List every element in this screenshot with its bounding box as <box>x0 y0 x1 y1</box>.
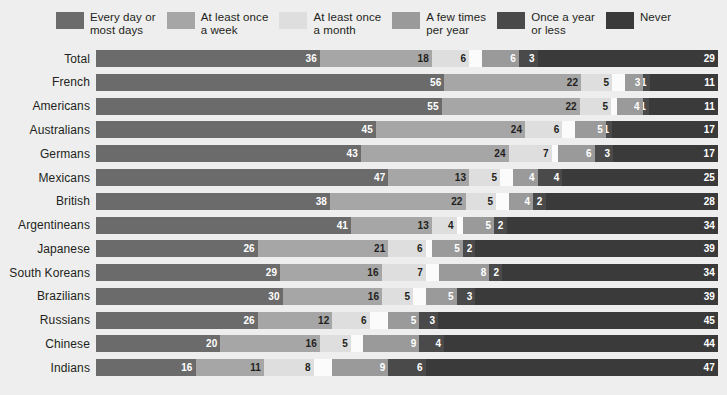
bar-segment[interactable]: 12 <box>258 312 333 329</box>
bar-segment[interactable] <box>370 312 389 329</box>
bar-segment[interactable]: 3 <box>625 74 644 91</box>
bar-segment[interactable]: 5 <box>426 288 457 305</box>
bar-segment[interactable] <box>469 50 481 67</box>
bar-segment[interactable]: 5 <box>581 74 612 91</box>
bar-segment[interactable]: 39 <box>475 288 718 305</box>
legend-item[interactable]: Never <box>606 11 671 29</box>
bar-segment[interactable]: 20 <box>96 335 220 352</box>
bar-segment[interactable]: 17 <box>613 145 718 162</box>
segment-value-label: 43 <box>346 148 357 159</box>
bar-segment[interactable]: 30 <box>96 288 283 305</box>
bar-segment[interactable]: 3 <box>595 145 613 162</box>
bar-segment[interactable] <box>562 121 574 138</box>
bar-segment[interactable]: 34 <box>502 264 718 281</box>
bar-segment[interactable]: 8 <box>439 264 490 281</box>
bar-segment[interactable]: 2 <box>533 193 545 210</box>
row-label: Japanese <box>0 242 96 256</box>
bar-segment[interactable]: 7 <box>509 145 552 162</box>
bar-segment[interactable]: 11 <box>649 98 718 115</box>
bar-segment[interactable]: 4 <box>419 335 444 352</box>
bar-segment[interactable]: 47 <box>96 169 388 186</box>
bar-segment[interactable]: 3 <box>457 288 476 305</box>
bar-segment[interactable]: 4 <box>538 169 563 186</box>
bar-segment[interactable]: 22 <box>330 193 465 210</box>
bar-segment[interactable]: 6 <box>525 121 562 138</box>
bar-segment[interactable]: 5 <box>463 217 494 234</box>
bar-segment[interactable]: 47 <box>426 359 718 376</box>
bar-segment[interactable] <box>314 359 333 376</box>
bar-segment[interactable]: 39 <box>475 240 718 257</box>
bar-segment[interactable]: 2 <box>463 240 475 257</box>
bar-segment[interactable]: 2 <box>489 264 502 281</box>
bar-segment[interactable]: 5 <box>466 193 497 210</box>
bar-segment[interactable]: 5 <box>469 169 500 186</box>
bar-segment[interactable]: 43 <box>96 145 361 162</box>
bar-segment[interactable] <box>413 288 425 305</box>
bar-segment[interactable] <box>351 335 363 352</box>
bar-segment[interactable]: 55 <box>96 98 442 115</box>
bar-segment[interactable]: 56 <box>96 74 444 91</box>
bar-segment[interactable]: 22 <box>444 74 581 91</box>
bar-segment[interactable]: 28 <box>546 193 718 210</box>
bar-segment[interactable]: 4 <box>432 217 457 234</box>
bar-segment[interactable]: 6 <box>332 312 369 329</box>
bar-segment[interactable]: 5 <box>575 121 606 138</box>
bar-segment[interactable]: 22 <box>442 98 580 115</box>
bar-segment[interactable]: 4 <box>617 98 642 115</box>
segment-value-label: 5 <box>454 243 460 254</box>
bar-segment[interactable]: 5 <box>388 312 419 329</box>
bar-segment[interactable]: 34 <box>507 217 718 234</box>
bar-segment[interactable]: 6 <box>432 50 469 67</box>
bar-segment[interactable]: 11 <box>196 359 264 376</box>
legend-item[interactable]: At least once a month <box>279 11 381 36</box>
bar-segment[interactable] <box>612 74 624 91</box>
bar-segment[interactable]: 13 <box>351 217 432 234</box>
bar-segment[interactable]: 24 <box>361 145 509 162</box>
bar-segment[interactable]: 4 <box>509 193 534 210</box>
bar-segment[interactable]: 13 <box>388 169 469 186</box>
bar-segment[interactable]: 44 <box>444 335 718 352</box>
bar-segment[interactable]: 29 <box>538 50 718 67</box>
bar-segment[interactable]: 9 <box>332 359 388 376</box>
bar-segment[interactable]: 3 <box>419 312 438 329</box>
bar-segment[interactable]: 16 <box>283 288 383 305</box>
bar-segment[interactable]: 45 <box>96 121 376 138</box>
bar-segment[interactable]: 6 <box>388 240 425 257</box>
bar-segment[interactable]: 7 <box>382 264 426 281</box>
bar-segment[interactable]: 45 <box>438 312 718 329</box>
bar-segment[interactable]: 6 <box>558 145 595 162</box>
bar-segment[interactable]: 16 <box>220 335 320 352</box>
bar-segment[interactable] <box>426 264 439 281</box>
legend-item[interactable]: A few times per year <box>392 11 486 36</box>
bar-segment[interactable]: 6 <box>388 359 425 376</box>
bar-segment[interactable]: 9 <box>363 335 419 352</box>
bar-segment[interactable]: 2 <box>494 217 506 234</box>
bar-segment[interactable] <box>500 169 512 186</box>
bar-segment[interactable]: 21 <box>258 240 389 257</box>
bar-segment[interactable]: 5 <box>580 98 611 115</box>
bar-segment[interactable]: 17 <box>612 121 718 138</box>
legend-item[interactable]: Once a year or less <box>497 11 595 36</box>
bar-segment[interactable]: 16 <box>96 359 196 376</box>
bar-segment[interactable]: 38 <box>96 193 330 210</box>
legend-item[interactable]: Every day or most days <box>56 11 156 36</box>
bar-segment[interactable]: 29 <box>96 264 280 281</box>
bar-segment[interactable]: 4 <box>513 169 538 186</box>
bar-segment[interactable]: 5 <box>432 240 463 257</box>
bar-segment[interactable]: 18 <box>320 50 432 67</box>
bar-segment[interactable]: 5 <box>382 288 413 305</box>
bar-segment[interactable]: 3 <box>519 50 538 67</box>
bar-segment[interactable]: 5 <box>320 335 351 352</box>
bar-segment[interactable]: 8 <box>264 359 314 376</box>
bar-segment[interactable]: 24 <box>376 121 525 138</box>
bar-segment[interactable]: 26 <box>96 240 258 257</box>
bar-segment[interactable]: 26 <box>96 312 258 329</box>
legend-item[interactable]: At least once a week <box>167 11 269 36</box>
bar-segment[interactable]: 25 <box>562 169 718 186</box>
bar-segment[interactable]: 41 <box>96 217 351 234</box>
bar-segment[interactable]: 36 <box>96 50 320 67</box>
bar-segment[interactable]: 11 <box>650 74 718 91</box>
bar-segment[interactable]: 6 <box>482 50 519 67</box>
bar-segment[interactable]: 16 <box>280 264 382 281</box>
bar-segment[interactable] <box>496 193 508 210</box>
